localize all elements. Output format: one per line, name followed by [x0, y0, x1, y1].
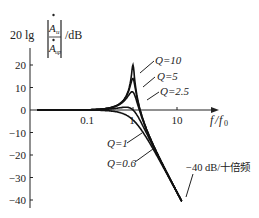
ylabel-numerator-sub: u: [56, 28, 60, 36]
ytick-20: 20: [15, 59, 27, 71]
y-tick-labels: 20 10 0 −10 −20 −30 −40: [9, 59, 27, 206]
ylabel-denominator-sub: up: [55, 49, 61, 55]
frequency-response-chart: 20 lg A u A up /dB 20 10 0 −10 −20 −30 −…: [0, 0, 259, 218]
y-axis-label: 20 lg A u A up /dB: [10, 14, 82, 58]
ytick-m40: −40: [9, 194, 27, 206]
xtick-10: 10: [172, 114, 184, 126]
annotation-q1: Q=1: [107, 137, 128, 149]
ylabel-numerator: A: [48, 22, 56, 34]
annotation-q0.6: Q=0.6: [107, 157, 137, 169]
ylabel-unit: /dB: [65, 28, 82, 42]
xtick-0.1: 0.1: [80, 114, 94, 126]
x-axis-label: f / f 0: [210, 113, 228, 128]
annotation-q10: Q=10: [155, 54, 182, 66]
x-tick-labels: 0.1 1 10: [80, 114, 183, 126]
ylabel-prefix: 20 lg: [10, 28, 34, 42]
ytick-m30: −30: [9, 172, 27, 184]
annotation-q5: Q=5: [157, 70, 178, 82]
svg-text:0: 0: [224, 119, 228, 128]
annotation-q2.5: Q=2.5: [160, 85, 190, 97]
curve-Q-1: [37, 107, 182, 201]
ytick-m20: −20: [9, 149, 27, 161]
curve-Q-0.6: [37, 110, 182, 201]
ytick-10: 10: [15, 82, 27, 94]
ytick-m10: −10: [9, 127, 27, 139]
ytick-0: 0: [21, 104, 27, 116]
annotation-slope: −40 dB/十倍频: [186, 161, 251, 173]
